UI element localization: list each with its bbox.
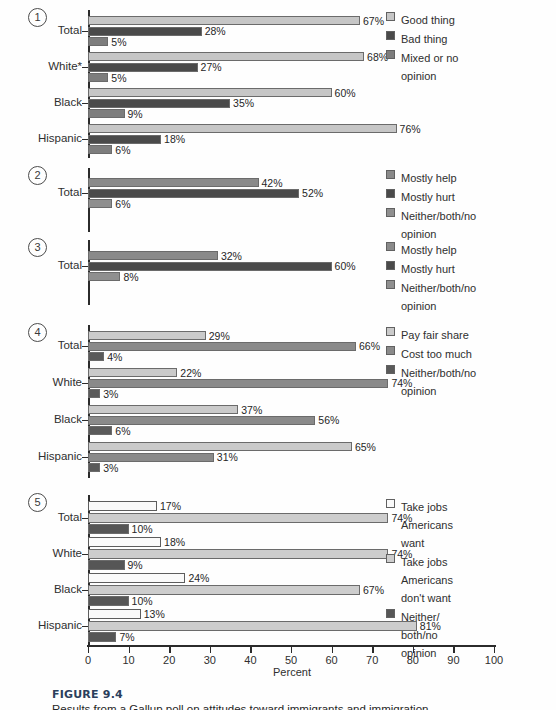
bar — [88, 416, 315, 425]
bar — [88, 609, 141, 619]
bar — [88, 331, 206, 340]
category-label: Hispanic — [2, 619, 82, 631]
bar — [88, 52, 364, 61]
x-axis-tick — [494, 647, 495, 653]
bar — [88, 585, 360, 595]
bar-value-label: 67% — [363, 585, 384, 596]
legend-label: Neither/ both/no opinion — [401, 611, 440, 659]
bar — [88, 463, 100, 472]
bar-value-label: 5% — [111, 37, 126, 48]
category-label: Black — [2, 413, 82, 425]
x-axis-tick-label: 0 — [73, 654, 103, 666]
legend-label: Mostly hurt — [401, 263, 455, 275]
category-label: Total — [2, 24, 82, 36]
bar-value-label: 3% — [103, 463, 118, 474]
bar — [88, 262, 332, 271]
legend-swatch — [386, 365, 395, 374]
x-axis-tick — [169, 647, 170, 653]
legend-item: Neither/both/no opinion — [386, 278, 556, 314]
x-axis-tick — [332, 647, 333, 653]
bar — [88, 251, 218, 260]
bar — [88, 513, 388, 523]
bar — [88, 560, 125, 570]
x-axis-tick — [291, 647, 292, 653]
legend-1: Good thingBad thingMixed or no opinion — [386, 10, 556, 85]
bar-value-label: 29% — [209, 331, 230, 342]
bar-value-label: 60% — [335, 88, 356, 99]
legend-label: Mostly help — [401, 244, 457, 256]
legend-item: Mostly hurt — [386, 187, 556, 205]
bar — [88, 426, 112, 435]
legend-swatch — [386, 499, 395, 508]
bar-value-label: 31% — [217, 452, 238, 463]
legend-2: Mostly helpMostly hurtNeither/both/no op… — [386, 168, 556, 243]
legend-item: Take jobs Americans don't want — [386, 552, 556, 606]
x-axis-tick — [372, 647, 373, 653]
legend-swatch — [386, 554, 395, 563]
category-label: Total — [2, 259, 82, 271]
legend-label: Neither/both/no opinion — [401, 282, 476, 312]
category-label: White — [2, 547, 82, 559]
legend-label: Pay fair share — [401, 329, 469, 341]
bar-value-label: 56% — [318, 415, 339, 426]
bar — [88, 501, 157, 511]
bar-value-label: 10% — [132, 524, 153, 535]
figure-label: FIGURE 9.4 — [52, 688, 532, 701]
figure-description: Results from a Gallup poll on attitudes … — [52, 703, 532, 710]
x-axis-tick-label: 40 — [235, 654, 265, 666]
x-axis-tick-label: 30 — [195, 654, 225, 666]
legend-item: Neither/both/no opinion — [386, 206, 556, 242]
bar-value-label: 3% — [103, 389, 118, 400]
bar — [88, 405, 238, 414]
bar-value-label: 18% — [164, 537, 185, 548]
x-axis-tick — [129, 647, 130, 653]
figure-container: 1Total67%28%5%White*68%27%5%Black60%35%9… — [0, 0, 556, 710]
panel-3: 3Total32%60%8%Mostly helpMostly hurtNeit… — [0, 240, 556, 305]
legend-item: Take jobs Americans want — [386, 497, 556, 551]
x-axis-tick-label: 70 — [357, 654, 387, 666]
legend-swatch — [386, 31, 395, 40]
bar-value-label: 32% — [221, 251, 242, 262]
legend-swatch — [386, 609, 395, 618]
legend-item: Mostly help — [386, 168, 556, 186]
bar-value-label: 27% — [201, 62, 222, 73]
bar-value-label: 18% — [164, 134, 185, 145]
bar-value-label: 68% — [367, 52, 388, 63]
x-axis-tick-label: 60 — [317, 654, 347, 666]
legend-swatch — [386, 261, 395, 270]
bar — [88, 109, 125, 118]
legend-label: Mostly help — [401, 172, 457, 184]
legend-label: Cost too much — [401, 348, 472, 360]
bar — [88, 342, 356, 351]
legend-swatch — [386, 50, 395, 59]
legend-label: Take jobs Americans want — [401, 501, 453, 549]
panel-1: 1Total67%28%5%White*68%27%5%Black60%35%9… — [0, 10, 556, 158]
bar-value-label: 37% — [241, 405, 262, 416]
category-label: White* — [2, 60, 82, 72]
bar-value-label: 67% — [363, 16, 384, 27]
bar — [88, 199, 112, 208]
x-axis-tick-label: 50 — [276, 654, 306, 666]
legend-label: Take jobs Americans don't want — [401, 556, 453, 604]
bar-value-label: 24% — [188, 573, 209, 584]
legend-swatch — [386, 170, 395, 179]
bar-value-label: 9% — [128, 560, 143, 571]
bar-value-label: 9% — [128, 109, 143, 120]
category-label: White — [2, 376, 82, 388]
bar — [88, 63, 198, 72]
bar-value-label: 22% — [180, 368, 201, 379]
bar — [88, 135, 161, 144]
bar-value-label: 60% — [335, 261, 356, 272]
bar — [88, 37, 108, 46]
legend-label: Bad thing — [401, 33, 447, 45]
bar — [88, 189, 299, 198]
category-label: Black — [2, 583, 82, 595]
bar-value-label: 76% — [400, 124, 421, 135]
bar-value-label: 42% — [262, 178, 283, 189]
legend-label: Mostly hurt — [401, 191, 455, 203]
panel-number-2: 2 — [28, 166, 47, 185]
legend-item: Cost too much — [386, 344, 556, 362]
legend-item: Neither/ both/no opinion — [386, 607, 556, 661]
bar-value-label: 10% — [132, 596, 153, 607]
x-axis-tick-label: 80 — [398, 654, 428, 666]
